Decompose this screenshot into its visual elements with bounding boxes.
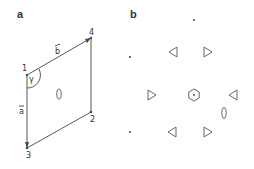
vertex-label-2: 2 <box>90 115 95 124</box>
triangle-right-icon <box>148 90 156 100</box>
vector-a-label: a <box>19 107 24 116</box>
triangle-left-icon <box>168 127 176 137</box>
two-fold-axis-icon <box>57 89 61 99</box>
vertex-label-1: 1 <box>22 64 27 73</box>
vertex-3-dot <box>26 147 28 149</box>
vertex-label-4: 4 <box>89 28 94 37</box>
vector-b-label: b <box>55 47 60 56</box>
triangle-left-icon <box>229 90 237 100</box>
panel-b-label: b <box>130 8 137 20</box>
vertex-4-dot <box>90 37 92 39</box>
triangle-right-icon <box>204 47 212 57</box>
triangle-left-icon <box>169 47 177 57</box>
lattice-dot <box>193 19 195 21</box>
edge-2-3 <box>27 112 91 148</box>
vertex-label-3: 3 <box>26 151 31 160</box>
vertex-2-dot <box>90 111 92 113</box>
two-fold-axis-icon <box>222 108 226 119</box>
vector-b-overbar <box>55 44 60 46</box>
six-fold-center-dot <box>193 94 195 96</box>
symmetry-pattern <box>129 19 237 137</box>
diagram-canvas: a 1 4 2 3 b a γ b <box>0 0 254 169</box>
lattice-dot <box>129 131 131 133</box>
angle-gamma-label: γ <box>29 75 34 84</box>
lattice-dot <box>129 56 131 58</box>
triangle-right-icon <box>204 127 212 137</box>
edge-1-4 <box>27 38 91 75</box>
vertex-1-dot <box>26 74 28 76</box>
panel-a-label: a <box>17 8 24 20</box>
